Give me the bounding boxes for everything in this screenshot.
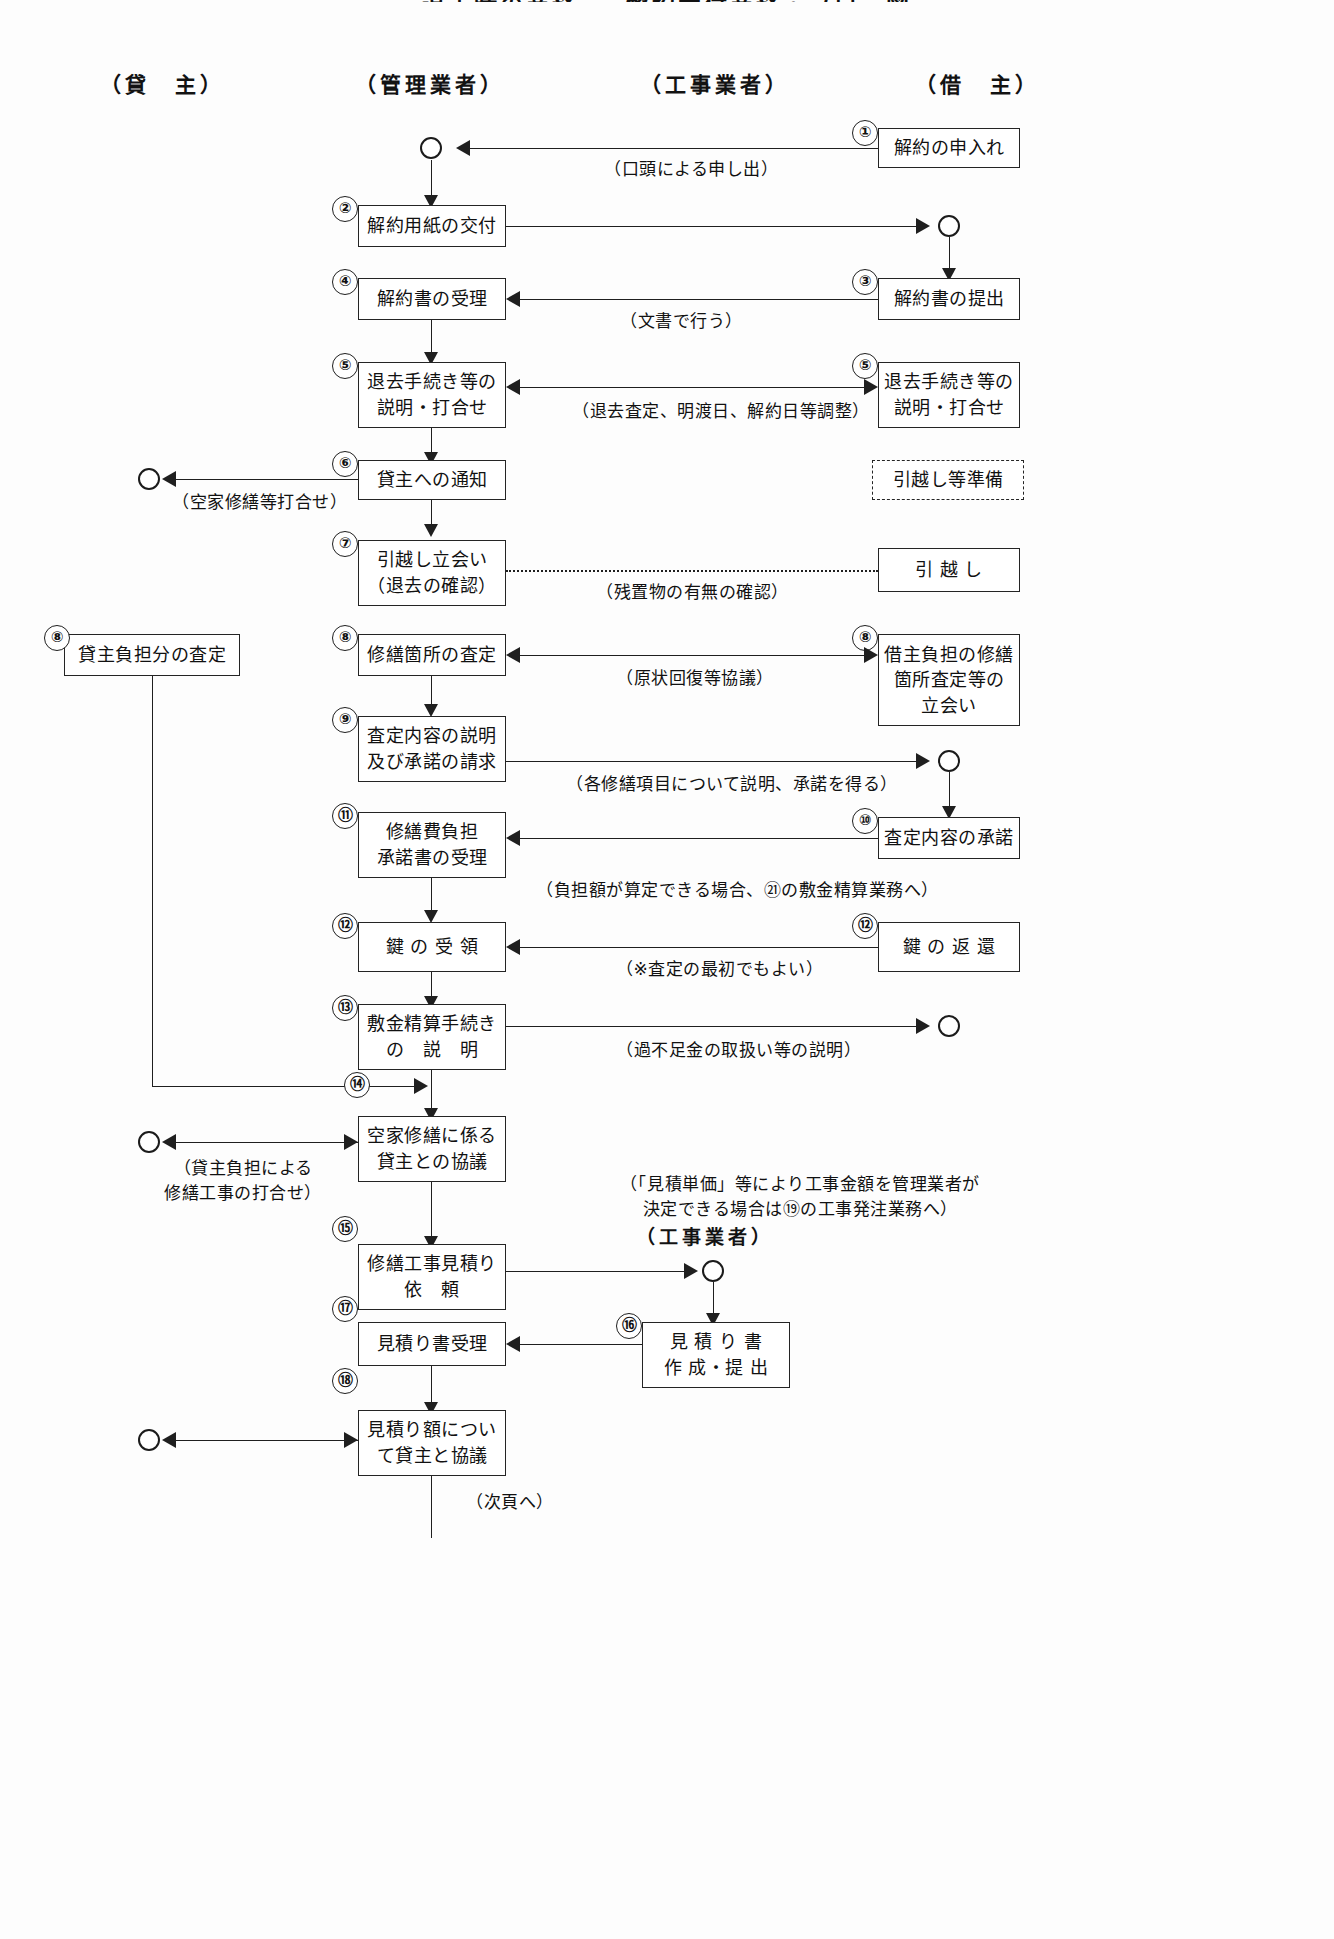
step-number-14: ⑭ [344, 1072, 370, 1098]
step-14-line-2: 貸主との協議 [377, 1149, 488, 1175]
caption-leftover-check: （残置物の有無の確認） [596, 578, 789, 603]
caption-moveout-adjust: （退去査定、明渡日、解約日等調整） [572, 397, 870, 422]
step-box-11: 修繕費負担 承諾書の受理 [358, 812, 506, 878]
step-13-line-2: の 説 明 [386, 1037, 479, 1063]
step-6-line-1: 貸主への通知 [377, 467, 488, 493]
step-number-15: ⑮ [332, 1216, 358, 1242]
column-header-lender: （貸 主） [100, 68, 225, 98]
step-box-18: 見積り額につい て貸主と協議 [358, 1410, 506, 1476]
connector-12-return-key [520, 947, 878, 948]
step-5-tenant-line-1: 退去手続き等の [884, 369, 1014, 395]
step-4-line-1: 解約書の受理 [377, 286, 488, 312]
caption-lender-burden-line-2: 修繕工事の打合せ） [164, 1183, 322, 1203]
caption-lender-burden-repair: （貸主負担による 修繕工事の打合せ） [128, 1156, 358, 1205]
arrowhead-left-12 [506, 939, 520, 955]
step-8-tenant-line-1: 借主負担の修繕 [884, 642, 1014, 668]
connector-14-to-lender [166, 1142, 358, 1143]
step-number-3: ③ [852, 269, 878, 295]
step-box-8-manager: 修繕箇所の査定 [358, 634, 506, 676]
step-box-15: 修繕工事見積り 依 頼 [358, 1244, 506, 1310]
node-circle-tenant-13 [938, 1015, 960, 1037]
arrowhead-right-5 [864, 379, 878, 395]
connector-7-dotted [506, 570, 878, 572]
move-line-1: 引 越 し [915, 557, 983, 583]
step-8-lender-line-1: 貸主負担分の査定 [78, 642, 226, 668]
step-7-line-2: （退去の確認） [367, 573, 497, 599]
step-5-manager-line-2: 説明・打合せ [377, 395, 488, 421]
step-15-line-2: 依 頼 [404, 1277, 460, 1303]
step-box-8-tenant: 借主負担の修繕 箇所査定等の 立会い [878, 634, 1020, 726]
step-12-tenant-line-1: 鍵 の 返 還 [903, 934, 996, 960]
caption-restoration-consult: （原状回復等協議） [616, 664, 774, 689]
step-number-13: ⑬ [332, 995, 358, 1021]
step-12-manager-line-1: 鍵 の 受 領 [386, 934, 479, 960]
column-header-tenant: （借 主） [915, 68, 1040, 98]
step-16-line-2: 作 成・提 出 [664, 1355, 769, 1381]
step-number-10: ⑩ [852, 808, 878, 834]
arrowhead-left-8 [506, 647, 520, 663]
step-5-manager-line-1: 退去手続き等の [367, 369, 497, 395]
step-11-line-2: 承諾書の受理 [377, 845, 488, 871]
caption-explain-consent: （各修繕項目について説明、承諾を得る） [566, 770, 898, 795]
connector-8-lender-long [152, 676, 153, 1086]
step-number-2: ② [332, 196, 358, 222]
step-18-line-2: て貸主と協議 [377, 1443, 488, 1469]
caption-vacancy-repair: （空家修繕等打合せ） [172, 488, 347, 513]
step-box-3: 解約書の提出 [878, 278, 1020, 320]
node-circle-contractor-15 [702, 1260, 724, 1282]
step-number-5-manager: ⑤ [332, 353, 358, 379]
column-header-contractor-lower: （工事業者） [636, 1222, 774, 1249]
step-9-line-1: 査定内容の説明 [367, 723, 497, 749]
connector-5-bidirectional [520, 387, 864, 388]
step-number-1: ① [852, 120, 878, 146]
node-circle-manager-1 [420, 137, 442, 159]
arrowhead-right-9 [916, 753, 930, 769]
step-14-line-1: 空家修繕に係る [367, 1123, 497, 1149]
node-circle-tenant-2 [938, 215, 960, 237]
step-17-line-1: 見積り書受理 [377, 1331, 488, 1357]
step-box-12-tenant: 鍵 の 返 還 [878, 922, 1020, 972]
step-9-line-2: 及び承諾の請求 [367, 749, 497, 775]
step-18-line-1: 見積り額につい [367, 1417, 497, 1443]
arrowhead-right-13 [916, 1018, 930, 1034]
connector-14-to-15 [431, 1182, 432, 1244]
flowchart-page: 退去時の業務 — 解約受付業務・フロー図 （貸 主） （管理業者） （工事業者）… [0, 0, 1334, 1939]
connector-to-next-page [431, 1476, 432, 1538]
step-box-5-manager: 退去手続き等の 説明・打合せ [358, 362, 506, 428]
step-number-8-lender: ⑧ [44, 625, 70, 651]
step-2-line-1: 解約用紙の交付 [367, 213, 497, 239]
arrowhead-right-18-lender [344, 1432, 358, 1448]
connector-13-to-tenant [506, 1026, 924, 1027]
node-circle-lender-14 [138, 1131, 160, 1153]
arrowhead-right-14-join [414, 1078, 428, 1094]
caption-oral-request: （口頭による申し出） [604, 155, 778, 180]
step-3-line-1: 解約書の提出 [894, 286, 1005, 312]
step-number-7: ⑦ [332, 531, 358, 557]
step-box-4: 解約書の受理 [358, 278, 506, 320]
step-box-13: 敷金精算手続き の 説 明 [358, 1004, 506, 1070]
step-15-line-1: 修繕工事見積り [367, 1251, 497, 1277]
caption-by-document: （文書で行う） [620, 307, 743, 332]
step-number-16: ⑯ [616, 1313, 642, 1339]
step-box-12-manager: 鍵 の 受 領 [358, 922, 506, 972]
caption-lender-burden-line-1: （貸主負担による [174, 1158, 313, 1178]
caption-key-timing: （※査定の最初でもよい） [616, 955, 823, 980]
page-title: 退去時の業務 — 解約受付業務・フロー図 [0, 0, 1334, 2]
connector-18-to-lender [166, 1440, 358, 1441]
arrowhead-right-14-lender [344, 1134, 358, 1150]
step-8-manager-line-1: 修繕箇所の査定 [367, 642, 497, 668]
step-box-16: 見 積 り 書 作 成・提 出 [642, 1322, 790, 1388]
arrowhead-left-18-lender [162, 1432, 176, 1448]
step-5-tenant-line-2: 説明・打合せ [894, 395, 1005, 421]
connector-2-to-tenant [506, 226, 924, 227]
arrowhead-right-15 [684, 1263, 698, 1279]
step-number-4: ④ [332, 269, 358, 295]
node-circle-tenant-9 [938, 750, 960, 772]
step-box-1: 解約の申入れ [878, 128, 1020, 168]
step-box-move: 引 越 し [878, 548, 1020, 592]
arrowhead-right-8 [864, 647, 878, 663]
step-number-8-manager: ⑧ [332, 625, 358, 651]
arrowhead-left-1 [456, 140, 470, 156]
step-number-5-tenant: ⑤ [852, 353, 878, 379]
step-box-5-tenant: 退去手続き等の 説明・打合せ [878, 362, 1020, 428]
